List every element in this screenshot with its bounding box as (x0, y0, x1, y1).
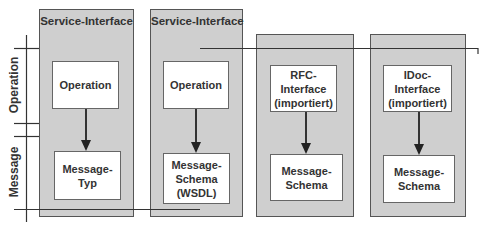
axis-label-message: Message (7, 137, 23, 207)
axis-label-operation: Operation (7, 50, 23, 120)
arrowhead-2 (191, 142, 201, 153)
connector-lines (0, 0, 485, 227)
arrowhead-4 (414, 144, 424, 155)
arrowhead-3 (301, 143, 311, 154)
arrowhead-1 (81, 140, 91, 151)
